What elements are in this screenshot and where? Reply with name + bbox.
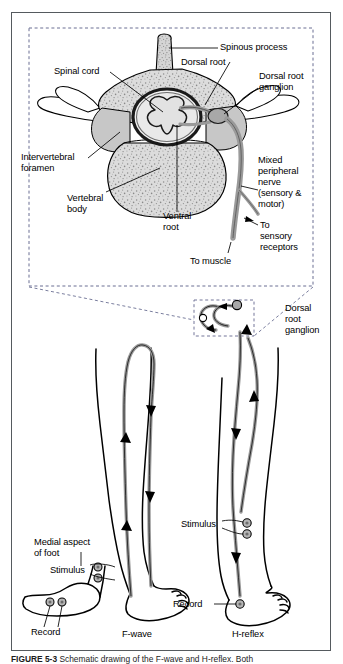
label-to-sensory-line1: To <box>260 220 270 231</box>
label-spinal-cord: Spinal cord <box>54 66 99 77</box>
label-stimulus-leg: Stimulus <box>181 519 216 530</box>
label-dorsal-root-ganglion-lower-line1: Dorsal <box>285 303 311 314</box>
figure-caption-text: Schematic drawing of the F-wave and H-re… <box>57 654 253 664</box>
label-ventral-root-line1: Ventral <box>163 211 191 222</box>
label-dorsal-root-ganglion-lower-line2: root <box>285 314 301 325</box>
label-ventral-root-line2: root <box>163 222 179 233</box>
label-dorsal-root-ganglion-line2: ganglion <box>259 82 293 93</box>
label-vertebral-body-line2: body <box>67 204 87 215</box>
label-intervertebral-foramen-line1: Intervertebral <box>21 152 74 163</box>
label-vertebral-body-line1: Vertebral <box>67 193 103 204</box>
figure-caption-label: FIGURE 5-3 <box>11 654 57 664</box>
label-mixed-nerve-line4: (sensory & <box>258 188 301 199</box>
label-dorsal-root: Dorsal root <box>181 57 225 68</box>
label-record-leg: Record <box>173 599 202 610</box>
label-dorsal-root-ganglion-lower-line3: ganglion <box>285 325 319 336</box>
label-to-sensory-line2: sensory <box>260 231 292 242</box>
figure-caption: FIGURE 5-3 Schematic drawing of the F-wa… <box>11 654 341 664</box>
label-mixed-nerve-line3: nerve <box>258 177 281 188</box>
label-mixed-nerve-line2: peripheral <box>258 166 298 177</box>
label-stimulus-foot: Stimulus <box>50 565 85 576</box>
label-dorsal-root-ganglion-line1: Dorsal root <box>259 71 303 82</box>
label-medial-aspect-line1: Medial aspect <box>34 537 90 548</box>
label-mixed-nerve-line5: motor) <box>258 199 284 210</box>
figure-root: Spinous process Dorsal root Dorsal root … <box>0 0 343 664</box>
label-f-wave: F-wave <box>122 629 152 640</box>
label-to-muscle: To muscle <box>190 256 231 267</box>
label-intervertebral-foramen-line2: foramen <box>21 163 54 174</box>
label-to-sensory-line3: receptors <box>260 242 298 253</box>
label-h-reflex: H-reflex <box>232 629 264 640</box>
label-record-foot: Record <box>31 627 60 638</box>
label-medial-aspect-line2: of foot <box>34 548 59 559</box>
label-mixed-nerve-line1: Mixed <box>258 155 282 166</box>
label-spinous-process: Spinous process <box>220 42 287 53</box>
